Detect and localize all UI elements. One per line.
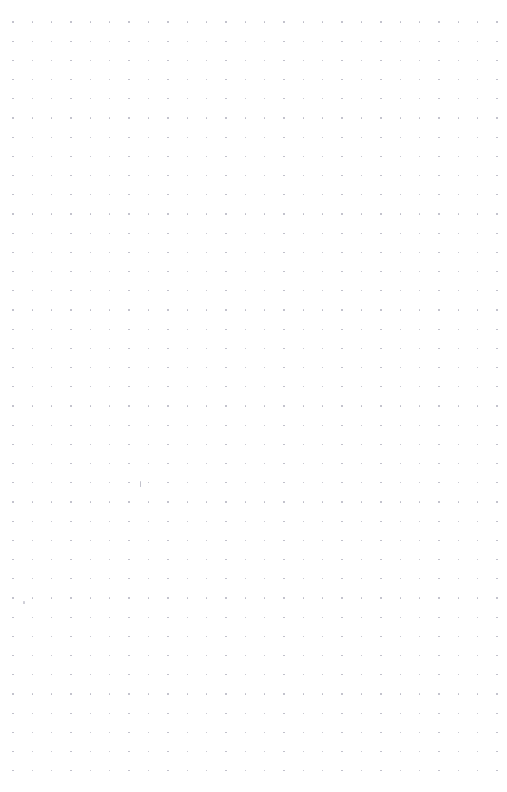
grid-dot	[206, 617, 207, 618]
grid-dot	[245, 117, 246, 118]
grid-dot	[206, 540, 207, 541]
grid-dot	[225, 137, 226, 138]
grid-dot	[361, 732, 362, 733]
grid-dot	[419, 156, 420, 157]
grid-dot	[264, 732, 265, 733]
grid-dot	[128, 521, 129, 522]
grid-dot	[90, 597, 91, 598]
grid-dot	[341, 98, 342, 99]
grid-dot	[361, 175, 362, 176]
grid-dot	[477, 617, 478, 618]
grid-dot	[90, 41, 91, 42]
grid-dot	[341, 117, 342, 118]
grid-dot	[148, 386, 149, 387]
grid-dot	[187, 617, 188, 618]
grid-dot	[419, 501, 420, 502]
grid-dot	[90, 175, 91, 176]
grid-dot	[90, 348, 91, 349]
grid-dot	[496, 233, 497, 234]
grid-dot	[109, 41, 110, 42]
grid-dot	[148, 21, 149, 22]
grid-dot	[245, 636, 246, 637]
grid-dot	[167, 252, 168, 253]
grid-dot	[380, 521, 381, 522]
grid-dot	[322, 713, 323, 714]
grid-dot	[322, 175, 323, 176]
grid-dot	[70, 444, 71, 445]
grid-dot	[167, 770, 168, 771]
grid-dot	[245, 732, 246, 733]
grid-dot	[458, 578, 459, 579]
grid-dot	[206, 156, 207, 157]
grid-dot	[380, 194, 381, 195]
grid-dot	[32, 21, 33, 22]
grid-dot	[187, 386, 188, 387]
grid-dot	[167, 175, 168, 176]
pen-mark-center	[140, 481, 141, 487]
grid-dot	[90, 770, 91, 771]
grid-dot	[264, 60, 265, 61]
grid-dot	[341, 21, 342, 22]
grid-dot	[225, 213, 226, 214]
grid-dot	[206, 233, 207, 234]
grid-dot	[303, 348, 304, 349]
grid-dot	[109, 501, 110, 502]
grid-dot	[341, 309, 342, 310]
grid-dot	[283, 540, 284, 541]
grid-dot	[90, 329, 91, 330]
grid-dot	[380, 617, 381, 618]
grid-dot	[32, 482, 33, 483]
grid-dot	[12, 194, 13, 195]
grid-dot	[12, 597, 13, 598]
grid-dot	[264, 597, 265, 598]
grid-dot	[400, 290, 401, 291]
grid-dot	[303, 559, 304, 560]
grid-dot	[32, 425, 33, 426]
grid-dot	[380, 463, 381, 464]
grid-dot	[341, 348, 342, 349]
grid-dot	[458, 194, 459, 195]
grid-dot	[90, 732, 91, 733]
grid-dot	[341, 60, 342, 61]
grid-dot	[438, 463, 439, 464]
grid-dot	[361, 233, 362, 234]
grid-dot	[438, 156, 439, 157]
grid-dot	[477, 751, 478, 752]
grid-dot	[206, 636, 207, 637]
grid-dot	[245, 425, 246, 426]
grid-dot	[438, 329, 439, 330]
grid-dot	[32, 751, 33, 752]
grid-dot	[32, 98, 33, 99]
grid-dot	[12, 713, 13, 714]
grid-dot	[245, 79, 246, 80]
grid-dot	[187, 290, 188, 291]
grid-dot	[128, 559, 129, 560]
grid-dot	[341, 252, 342, 253]
grid-dot	[477, 713, 478, 714]
grid-dot	[400, 137, 401, 138]
grid-dot	[167, 309, 168, 310]
grid-dot	[187, 98, 188, 99]
grid-dot	[496, 194, 497, 195]
grid-dot	[109, 636, 110, 637]
grid-dot	[303, 21, 304, 22]
grid-dot	[12, 559, 13, 560]
grid-dot	[12, 693, 13, 694]
grid-dot	[477, 98, 478, 99]
grid-dot	[128, 770, 129, 771]
grid-dot	[496, 732, 497, 733]
grid-dot	[70, 329, 71, 330]
grid-dot	[477, 425, 478, 426]
grid-dot	[225, 597, 226, 598]
grid-dot	[380, 156, 381, 157]
grid-dot	[70, 348, 71, 349]
grid-dot	[109, 597, 110, 598]
grid-dot	[341, 501, 342, 502]
grid-dot	[51, 578, 52, 579]
grid-dot	[438, 559, 439, 560]
grid-dot	[477, 367, 478, 368]
grid-dot	[380, 98, 381, 99]
grid-dot	[187, 329, 188, 330]
grid-dot	[32, 386, 33, 387]
grid-dot	[303, 386, 304, 387]
